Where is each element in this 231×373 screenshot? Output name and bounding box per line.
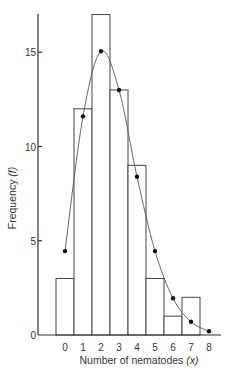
y-axis-title: Frequency (f) xyxy=(6,167,18,229)
x-tick-label: 1 xyxy=(80,342,86,353)
bar-6 xyxy=(164,316,182,335)
x-tick-label: 6 xyxy=(170,342,176,353)
histogram-chart: 051015 012345678 Number of nematodes (x)… xyxy=(0,0,231,373)
y-axis-title-var: (f) xyxy=(6,167,18,177)
point-6 xyxy=(171,296,175,300)
x-tick-label: 5 xyxy=(152,342,158,353)
x-axis-title: Number of nematodes (x) xyxy=(79,354,198,366)
point-1 xyxy=(81,114,85,118)
bar-3 xyxy=(110,90,128,335)
point-2 xyxy=(99,49,103,53)
x-tick-label: 2 xyxy=(98,342,104,353)
point-0 xyxy=(63,249,67,253)
bar-7 xyxy=(182,297,200,335)
bar-4 xyxy=(128,165,146,335)
x-tick-label: 8 xyxy=(206,342,212,353)
y-tick-label: 10 xyxy=(25,142,37,153)
bar-0 xyxy=(56,278,74,335)
y-ticks: 051015 xyxy=(25,47,42,341)
y-tick-label: 0 xyxy=(30,330,36,341)
y-tick-label: 5 xyxy=(30,236,36,247)
bar-5 xyxy=(146,278,164,335)
x-ticks: 012345678 xyxy=(62,342,212,353)
observed-bars xyxy=(56,15,200,335)
y-axis-title-main: Frequency xyxy=(6,177,18,230)
bar-1 xyxy=(74,109,92,335)
x-tick-label: 3 xyxy=(116,342,122,353)
point-5 xyxy=(153,249,157,253)
y-tick-label: 15 xyxy=(25,47,37,58)
x-axis-title-var: (x) xyxy=(186,354,198,366)
x-tick-label: 7 xyxy=(188,342,194,353)
bar-2 xyxy=(92,15,110,335)
x-tick-label: 4 xyxy=(134,342,140,353)
x-axis-title-main: Number of nematodes xyxy=(79,354,186,366)
point-8 xyxy=(207,329,211,333)
point-3 xyxy=(117,88,121,92)
x-tick-label: 0 xyxy=(62,342,68,353)
point-4 xyxy=(135,174,139,178)
point-7 xyxy=(189,320,193,324)
